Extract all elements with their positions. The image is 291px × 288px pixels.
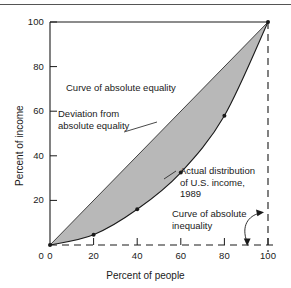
- lorenz-data-point: [135, 207, 139, 211]
- x-tick-label-80: 80: [209, 250, 239, 261]
- x-tick-label-60: 60: [166, 250, 196, 261]
- annotation-curve-of-absolute-equality: Curve of absolute equality: [66, 82, 176, 94]
- annotation-equality-line1: Curve of absolute equality: [66, 82, 176, 94]
- x-axis-ticks: [94, 238, 268, 245]
- annotation-inequality-line2: inequality: [172, 220, 246, 232]
- annotation-actual-line1: Actual distribution: [180, 165, 255, 177]
- plot-area: [0, 0, 291, 288]
- lorenz-data-point: [92, 233, 96, 237]
- x-tick-label-0: 0: [35, 250, 65, 261]
- x-tick-label-40: 40: [122, 250, 152, 261]
- annotation-curve-of-absolute-inequality: Curve of absolute inequality: [172, 208, 246, 231]
- annotation-actual-line2: of U.S. income,: [180, 177, 255, 189]
- annotation-deviation-line2: absolute equality: [58, 120, 129, 132]
- inequality-arrowhead-right: [256, 210, 264, 217]
- lorenz-data-point: [48, 243, 52, 247]
- annotation-deviation-from-absolute-equality: Deviation from absolute equality: [58, 108, 129, 131]
- y-axis-ticks: [50, 22, 57, 200]
- y-tick-label-100: 100: [12, 16, 44, 27]
- x-axis-title: Percent of people: [0, 270, 291, 281]
- y-tick-label-80: 80: [12, 61, 44, 72]
- lorenz-curve-figure: 100 80 60 40 20 0 0 20 40 60 80 100 Perc…: [0, 0, 291, 288]
- x-tick-label-20: 20: [79, 250, 109, 261]
- lorenz-data-point: [222, 114, 226, 118]
- annotation-actual-line3: 1989: [180, 188, 255, 200]
- y-tick-label-20: 20: [12, 194, 44, 205]
- y-axis-title: Percent of income: [14, 105, 25, 186]
- annotation-actual-distribution: Actual distribution of U.S. income, 1989: [180, 165, 255, 200]
- x-tick-label-100: 100: [253, 250, 283, 261]
- annotation-inequality-line1: Curve of absolute: [172, 208, 246, 220]
- lorenz-data-point: [266, 20, 270, 24]
- inequality-arrow-curve: [245, 213, 260, 242]
- annotation-deviation-line1: Deviation from: [58, 108, 129, 120]
